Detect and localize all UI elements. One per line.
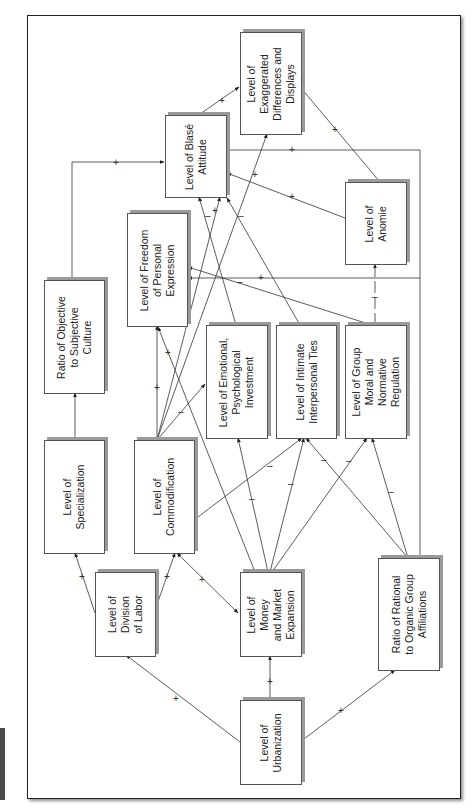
svg-text:+: + xyxy=(199,574,205,585)
node-label: Level of Anomie xyxy=(363,205,389,242)
svg-text:–: – xyxy=(288,478,294,489)
svg-text:–: – xyxy=(267,460,273,471)
edge-rational-group-moral xyxy=(372,438,408,558)
node-label: Level of Emotional, Psychological Invest… xyxy=(218,337,257,426)
node-money-market: Level of Money and Market Expansion xyxy=(240,572,302,657)
svg-text:–: – xyxy=(178,406,184,417)
edge-money-emotional xyxy=(238,438,268,572)
node-label: Level of Specialization xyxy=(62,465,88,530)
node-blase-attitude: Level of Blasé Attitude xyxy=(165,115,227,198)
node-division-of-labor: Level of Division of Labor xyxy=(95,572,156,657)
node-label: Level of Division of Labor xyxy=(106,595,145,634)
node-label: Ratio of Rational to Organic Group Affil… xyxy=(390,574,429,655)
edge-division-commodification xyxy=(154,553,175,613)
svg-text:–: – xyxy=(205,210,211,221)
svg-text:+: + xyxy=(173,693,179,704)
node-group-moral-regulation: Level of Group Moral and Normative Regul… xyxy=(345,325,407,439)
node-rational-organic-ratio: Ratio of Rational to Organic Group Affil… xyxy=(378,558,440,671)
svg-text:+: + xyxy=(332,124,338,135)
svg-text:–: – xyxy=(237,276,243,287)
node-label: Level of Commodification xyxy=(152,458,178,536)
node-label: Level of Freedom of Personal Expression xyxy=(138,229,177,311)
svg-text:+: + xyxy=(258,272,264,283)
svg-text:–: – xyxy=(238,210,244,221)
svg-text:–: – xyxy=(321,454,327,465)
edge-commodification-intimate xyxy=(194,438,302,520)
svg-text:+: + xyxy=(338,705,344,716)
node-anomie: Level of Anomie xyxy=(345,182,407,265)
edge-money-group-moral xyxy=(272,438,367,572)
svg-text:+: + xyxy=(164,571,170,582)
svg-text:+: + xyxy=(212,205,218,216)
svg-text:+: + xyxy=(165,347,171,358)
node-objective-subjective-ratio: Ratio of Objective to Subjective Culture xyxy=(44,280,105,394)
node-label: Level of Money and Market Expansion xyxy=(245,588,297,641)
svg-text:+: + xyxy=(252,169,258,180)
svg-text:+: + xyxy=(113,157,119,168)
node-freedom-expression: Level of Freedom of Personal Expression xyxy=(127,213,188,327)
node-label: Level of Group Moral and Normative Regul… xyxy=(350,348,402,417)
node-emotional-investment: Level of Emotional, Psychological Invest… xyxy=(206,325,268,439)
node-label: Level of Urbanization xyxy=(258,713,284,772)
node-label: Level of Intimate Interpersonal Ties xyxy=(294,340,320,423)
edge-group-moral-freedom xyxy=(188,267,372,325)
edge-division-specialization xyxy=(75,553,95,613)
svg-text:+: + xyxy=(267,676,273,687)
node-exaggerated-displays: Level of Exaggerated Differences and Dis… xyxy=(240,32,302,135)
node-label: Level of Blasé Attitude xyxy=(183,124,209,190)
svg-text:–: – xyxy=(372,291,378,302)
node-urbanization: Level of Urbanization xyxy=(240,700,302,785)
edge-urbanization-rational xyxy=(300,670,395,742)
edge-urbanization-division xyxy=(126,655,240,742)
svg-text:–: – xyxy=(388,486,394,497)
node-commodification: Level of Commodification xyxy=(134,440,195,554)
node-intimate-ties: Level of Intimate Interpersonal Ties xyxy=(276,325,337,439)
svg-text:–: – xyxy=(249,493,255,504)
svg-text:+: + xyxy=(289,144,295,155)
edge-anomie-exaggerated xyxy=(301,88,380,182)
node-label: Ratio of Objective to Subjective Culture xyxy=(55,296,94,379)
node-label: Level of Exaggerated Differences and Dis… xyxy=(245,47,297,120)
edge-money-commodification xyxy=(177,553,238,613)
svg-text:+: + xyxy=(289,191,295,202)
svg-text:+: + xyxy=(154,382,160,393)
node-specialization: Level of Specialization xyxy=(44,440,105,554)
svg-text:–: – xyxy=(346,455,352,466)
svg-text:+: + xyxy=(79,571,85,582)
svg-text:+: + xyxy=(219,95,225,106)
